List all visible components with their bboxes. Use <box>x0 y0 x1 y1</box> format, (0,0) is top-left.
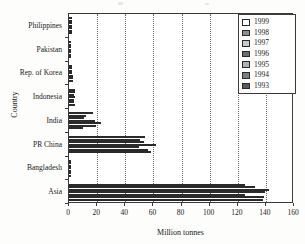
legend-label: 1999 <box>254 18 269 26</box>
bar <box>69 199 263 201</box>
scan-artifact <box>118 2 123 5</box>
legend-label: 1993 <box>254 82 269 90</box>
x-axis-tick <box>152 203 153 206</box>
y-axis-tick <box>65 37 68 38</box>
x-axis-tick-label: 40 <box>121 208 129 217</box>
x-axis-tick-label: 0 <box>66 208 70 217</box>
y-axis-tick <box>65 179 68 180</box>
x-axis-tick <box>265 203 266 206</box>
bar <box>69 151 151 153</box>
bar-group <box>69 157 292 181</box>
x-axis-tick <box>96 203 97 206</box>
x-axis-tick <box>237 203 238 206</box>
y-axis-category-label: Pakistan <box>0 44 62 53</box>
y-axis-category-label: Indonesia <box>0 92 62 101</box>
bar <box>69 32 72 34</box>
legend-swatch <box>242 61 250 68</box>
bar <box>69 80 73 82</box>
x-axis-tick <box>68 203 69 206</box>
legend-label: 1994 <box>254 71 269 79</box>
x-axis-tick-label: 120 <box>231 208 242 217</box>
x-axis-tick-label: 60 <box>149 208 157 217</box>
x-axis-tick-label: 140 <box>259 208 270 217</box>
legend-item: 1999 <box>242 17 292 28</box>
bar-chart: Country Million tonnes 19991998199719961… <box>0 0 305 244</box>
y-axis-tick <box>65 156 68 157</box>
legend-item: 1997 <box>242 38 292 49</box>
x-axis-tick <box>124 203 125 206</box>
legend-label: 1998 <box>254 29 269 37</box>
x-axis-tick-label: 20 <box>92 208 100 217</box>
legend-swatch <box>242 30 250 37</box>
y-axis-tick <box>65 132 68 133</box>
y-axis-category-label: India <box>0 115 62 124</box>
y-axis-tick <box>65 61 68 62</box>
bar-group <box>69 109 292 133</box>
x-axis-tick-label: 100 <box>203 208 214 217</box>
legend-item: 1998 <box>242 28 292 39</box>
legend-item: 1994 <box>242 70 292 81</box>
y-axis-tick <box>65 84 68 85</box>
y-axis-category-label: PR China <box>0 139 62 148</box>
legend-label: 1995 <box>254 61 269 69</box>
y-axis-title: Country <box>10 75 19 135</box>
x-axis-tick <box>181 203 182 206</box>
bar-group <box>69 180 292 204</box>
x-axis-tick-label: 160 <box>287 208 298 217</box>
x-axis-tick <box>293 203 294 206</box>
legend-swatch <box>242 83 250 90</box>
legend-item: 1995 <box>242 59 292 70</box>
legend-label: 1997 <box>254 39 269 47</box>
legend-label: 1996 <box>254 50 269 58</box>
legend-swatch <box>242 19 250 26</box>
x-axis-tick <box>209 203 210 206</box>
bar-group <box>69 133 292 157</box>
bar <box>69 56 71 58</box>
bar <box>69 104 75 106</box>
bar <box>69 175 71 177</box>
x-axis-title: Million tonnes <box>68 228 293 237</box>
legend-swatch <box>242 72 250 79</box>
x-axis-tick-label: 80 <box>177 208 185 217</box>
bar <box>69 127 83 129</box>
y-axis-tick <box>65 108 68 109</box>
scan-artifact <box>205 3 209 5</box>
y-axis-category-label: Philippines <box>0 20 62 29</box>
y-axis-tick <box>65 203 68 204</box>
chart-legend: 1999199819971996199519941993 <box>238 14 296 94</box>
y-axis-category-label: Rep. of Korea <box>0 68 62 77</box>
legend-swatch <box>242 40 250 47</box>
legend-item: 1993 <box>242 81 292 92</box>
legend-swatch <box>242 51 250 58</box>
y-axis-category-label: Bangladesh <box>0 163 62 172</box>
legend-item: 1996 <box>242 49 292 60</box>
y-axis-category-label: Asia <box>0 187 62 196</box>
